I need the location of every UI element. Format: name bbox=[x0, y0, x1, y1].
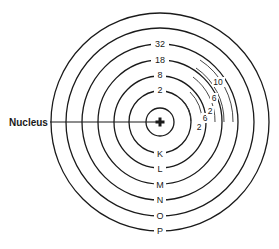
nucleus-plus-icon bbox=[156, 118, 165, 127]
svg-text:N: N bbox=[157, 195, 164, 205]
atom-diagram: 2 8 18 32 2 6 2 6 10 K L M N bbox=[0, 0, 279, 249]
shell-letter-p: P bbox=[154, 225, 166, 236]
shell-letter-n: N bbox=[154, 194, 166, 205]
svg-text:P: P bbox=[157, 226, 163, 236]
subshell-arc-l-2 bbox=[181, 99, 191, 121]
svg-text:18: 18 bbox=[155, 55, 165, 65]
svg-text:10: 10 bbox=[213, 77, 223, 87]
nucleus-label: Nucleus bbox=[9, 117, 48, 128]
svg-text:32: 32 bbox=[155, 39, 165, 49]
svg-text:K: K bbox=[157, 149, 163, 159]
svg-text:L: L bbox=[157, 164, 162, 174]
shell-letter-o: O bbox=[154, 210, 166, 221]
shell-letter-k: K bbox=[154, 148, 166, 159]
shell-letter-l: L bbox=[154, 163, 166, 174]
svg-text:2: 2 bbox=[157, 85, 162, 95]
capacity-label-k: 2 bbox=[154, 85, 166, 95]
svg-text:8: 8 bbox=[157, 70, 162, 80]
capacity-label-l: 8 bbox=[154, 70, 166, 80]
svg-text:M: M bbox=[156, 180, 164, 190]
svg-text:O: O bbox=[156, 211, 163, 221]
svg-text:6: 6 bbox=[212, 93, 217, 103]
shell-letter-m: M bbox=[154, 179, 166, 190]
svg-text:2: 2 bbox=[208, 106, 213, 116]
capacity-label-m: 18 bbox=[151, 55, 169, 65]
capacity-label-n: 32 bbox=[151, 39, 169, 49]
subshell-arc-l-6 bbox=[190, 92, 202, 122]
svg-text:2: 2 bbox=[197, 122, 202, 132]
